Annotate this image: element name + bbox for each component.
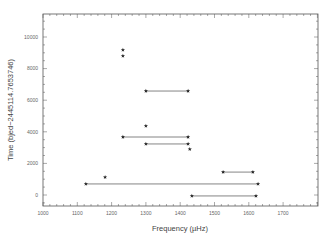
star-marker-icon: [186, 142, 190, 146]
y-tick-label: 0: [35, 192, 38, 198]
data-markers: [84, 48, 260, 198]
star-marker-icon: [144, 89, 148, 93]
x-axis-ticks: 10001100120013001400150016001700: [37, 14, 317, 216]
x-tick-label: 1200: [106, 210, 117, 216]
plot-frame: [43, 14, 318, 206]
star-marker-icon: [144, 124, 148, 128]
star-marker-icon: [190, 194, 194, 198]
y-tick-label: 4000: [27, 129, 38, 135]
star-marker-icon: [251, 170, 255, 174]
y-axis-label: Time (bjed−2445114.7653746): [6, 59, 15, 161]
star-marker-icon: [256, 182, 260, 186]
x-axis-label: Frequency (µHz): [152, 224, 209, 233]
star-marker-icon: [186, 89, 190, 93]
y-tick-label: 6000: [27, 97, 38, 103]
x-tick-label: 1500: [209, 210, 220, 216]
star-marker-icon: [121, 54, 125, 58]
star-marker-icon: [84, 182, 88, 186]
y-tick-label: 8000: [27, 65, 38, 71]
star-marker-icon: [221, 170, 225, 174]
star-marker-icon: [186, 135, 190, 139]
x-tick-label: 1400: [175, 210, 186, 216]
x-tick-label: 1600: [243, 210, 254, 216]
y-axis-ticks: 0200040006000800010000: [24, 21, 318, 203]
x-tick-label: 1100: [72, 210, 83, 216]
star-marker-icon: [188, 147, 192, 151]
x-tick-label: 1300: [140, 210, 151, 216]
x-tick-label: 1700: [278, 210, 289, 216]
star-marker-icon: [144, 142, 148, 146]
y-tick-label: 10000: [24, 34, 38, 40]
star-marker-icon: [103, 175, 107, 179]
star-marker-icon: [121, 48, 125, 52]
star-marker-icon: [254, 194, 258, 198]
data-segments: [86, 91, 258, 196]
chart: 10001100120013001400150016001700 0200040…: [0, 0, 335, 240]
y-tick-label: 2000: [27, 160, 38, 166]
star-marker-icon: [121, 135, 125, 139]
plot-border: [43, 14, 318, 206]
x-tick-label: 1000: [37, 210, 48, 216]
